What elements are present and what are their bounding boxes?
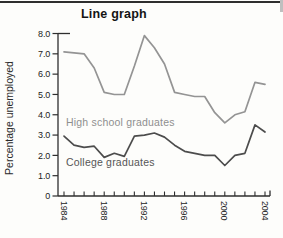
y-tick-label: 1.0 xyxy=(38,171,50,181)
y-tick-label: 7.0 xyxy=(38,49,50,59)
x-tick-label: 1984 xyxy=(59,201,69,220)
y-tick-label: 8.0 xyxy=(38,29,50,39)
x-tick-label: 1992 xyxy=(139,201,149,220)
line-graph-figure: Line graph Percentage unemployed High sc… xyxy=(0,0,283,238)
y-tick-label: 4.0 xyxy=(38,110,50,120)
y-tick-label: 0 xyxy=(45,191,50,201)
x-tick-label: 2000 xyxy=(219,201,229,220)
y-tick-label: 2.0 xyxy=(38,151,50,161)
y-tick-label: 5.0 xyxy=(38,90,50,100)
x-tick-label: 2004 xyxy=(260,201,270,220)
x-tick-label: 1996 xyxy=(179,201,189,220)
series-line-high-school xyxy=(64,36,265,123)
y-tick-label: 3.0 xyxy=(38,130,50,140)
y-tick-label: 6.0 xyxy=(38,69,50,79)
x-tick-label: 1988 xyxy=(99,201,109,220)
line-chart: 8.07.06.05.04.03.02.01.00198419881992199… xyxy=(0,0,283,238)
series-line-college xyxy=(64,125,265,166)
